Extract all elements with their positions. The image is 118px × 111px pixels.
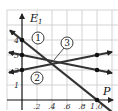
svg-text:2: 2 — [34, 73, 40, 83]
x-tick-08: .8 — [78, 102, 86, 111]
x-axis-label: P — [102, 85, 111, 98]
label-3: 3 — [54, 37, 73, 60]
label-1: 1 — [32, 32, 44, 44]
x-tick-02: .2 — [33, 102, 41, 111]
y-tick-3: 3 — [14, 51, 19, 60]
svg-text:1: 1 — [35, 33, 41, 43]
x-tick-04: .4 — [48, 102, 56, 111]
x-tick-06: .6 — [63, 102, 71, 111]
label-2: 2 — [31, 72, 43, 84]
y-tick-1: 1 — [14, 81, 19, 90]
grid — [7, 10, 118, 110]
y-axis-label: E1 — [29, 12, 43, 26]
svg-text:3: 3 — [64, 38, 70, 48]
chart: E1 P 1 2 3 4 .2 .4 .6 .8 1.0 1 2 — [0, 0, 118, 111]
